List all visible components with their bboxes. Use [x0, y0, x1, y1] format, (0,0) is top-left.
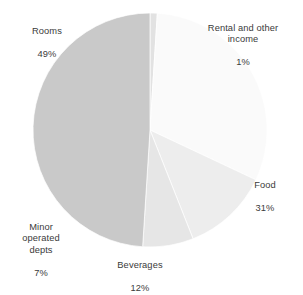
pie-label-beverages: Beverages 12% [94, 248, 186, 295]
pie-label-minor-operated-depts-value: 7% [2, 268, 80, 280]
pie-label-food-name: Food [236, 180, 294, 192]
pie-label-rental-and-other-income: Rental and other income 1% [186, 11, 300, 81]
pie-label-minor-operated-depts: Minor operated depts 7% [2, 210, 80, 291]
pie-label-rooms-value: 49% [8, 49, 86, 61]
pie-label-rooms: Rooms 49% [8, 14, 86, 72]
pie-label-rental-and-other-income-name: Rental and other income [186, 23, 300, 46]
pie-label-beverages-value: 12% [94, 283, 186, 295]
pie-label-minor-operated-depts-name: Minor operated depts [2, 222, 80, 257]
pie-label-food-value: 31% [236, 203, 294, 215]
pie-label-rooms-name: Rooms [8, 26, 86, 38]
pie-label-beverages-name: Beverages [94, 260, 186, 272]
pie-label-rental-and-other-income-value: 1% [186, 57, 300, 69]
pie-label-food: Food 31% [236, 168, 294, 226]
